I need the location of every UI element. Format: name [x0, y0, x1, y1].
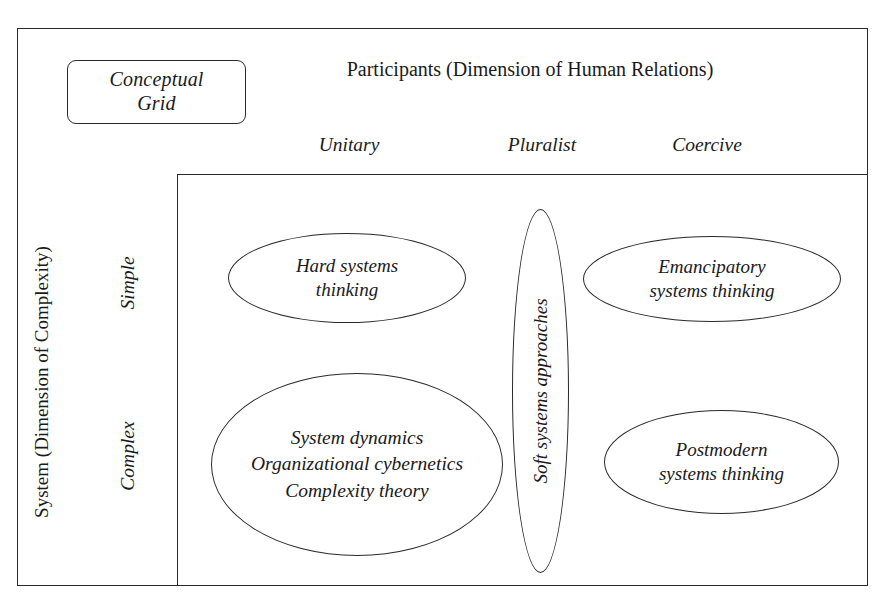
system-axis-title: System (Dimension of Complexity) — [31, 246, 53, 518]
row-label-simple: Simple — [117, 256, 139, 309]
row-label-complex: Complex — [117, 421, 139, 490]
conceptual-grid-title-box: Conceptual Grid — [67, 60, 246, 124]
cell-ellipse-emancipatory-systems-thinking: Emancipatory systems thinking — [583, 236, 841, 322]
participants-axis-title: Participants (Dimension of Human Relatio… — [300, 58, 760, 81]
cell-label-postmodern-systems-thinking: Postmodern systems thinking — [653, 438, 790, 486]
cell-label-complex-unitary: System dynamics Organizational cyberneti… — [245, 425, 469, 504]
column-label-pluralist: Pluralist — [482, 134, 602, 156]
cell-ellipse-hard-systems-thinking: Hard systems thinking — [228, 233, 466, 323]
cell-label-soft-systems-approaches: Soft systems approaches — [530, 298, 552, 483]
conceptual-grid-title-line1: Conceptual — [109, 68, 203, 92]
column-label-unitary: Unitary — [289, 134, 409, 156]
cell-ellipse-postmodern-systems-thinking: Postmodern systems thinking — [604, 410, 839, 514]
cell-label-hard-systems-thinking: Hard systems thinking — [290, 254, 404, 302]
conceptual-grid-diagram: Conceptual Grid Participants (Dimension … — [0, 0, 886, 615]
cell-ellipse-complex-unitary: System dynamics Organizational cyberneti… — [211, 373, 503, 556]
column-label-coercive: Coercive — [647, 134, 767, 156]
cell-label-emancipatory-systems-thinking: Emancipatory systems thinking — [643, 255, 780, 303]
conceptual-grid-title-line2: Grid — [137, 92, 176, 116]
cell-ellipse-soft-systems-approaches: Soft systems approaches — [512, 209, 569, 573]
